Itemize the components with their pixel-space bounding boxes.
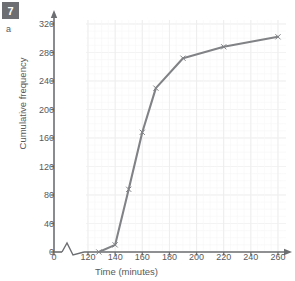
y-axis-title: Cumulative frequency bbox=[17, 34, 28, 174]
y-axis-tick-label: 280 bbox=[28, 48, 54, 58]
y-axis-tick: 120 bbox=[28, 167, 54, 177]
y-axis-tick: 200 bbox=[28, 110, 54, 120]
data-point-markers bbox=[96, 34, 280, 254]
y-axis-tick: 240 bbox=[28, 81, 54, 91]
x-axis-tick-label: 220 bbox=[216, 252, 231, 262]
y-axis-tick-label: 160 bbox=[28, 133, 54, 143]
y-axis-tick-label: 80 bbox=[28, 190, 54, 200]
x-axis-tick-label: 160 bbox=[135, 252, 150, 262]
axes bbox=[51, 10, 293, 256]
x-axis-tick-label: 140 bbox=[108, 252, 123, 262]
x-axis-tick-label: 240 bbox=[243, 252, 258, 262]
x-axis-tick-labels: 0120140160180200220240260 bbox=[0, 252, 295, 266]
x-axis-tick-label: 200 bbox=[189, 252, 204, 262]
x-axis-tick-label: 120 bbox=[80, 252, 95, 262]
x-axis-tick-label: 260 bbox=[270, 252, 285, 262]
x-axis-tick-label: 0 bbox=[51, 252, 56, 262]
y-axis-tick-label: 240 bbox=[28, 76, 54, 86]
y-axis-tick-label: 40 bbox=[28, 219, 54, 229]
x-axis-title: Time (minutes) bbox=[95, 266, 158, 277]
y-axis-tick-label: 320 bbox=[28, 19, 54, 29]
y-axis-tick: 280 bbox=[28, 53, 54, 63]
y-axis-tick: 320 bbox=[28, 24, 54, 34]
cumulative-frequency-chart: 04080120160200240280320 0120140160180200… bbox=[0, 0, 295, 281]
y-axis-tick-label: 120 bbox=[28, 162, 54, 172]
y-axis-tick-label: 200 bbox=[28, 105, 54, 115]
y-axis-tick: 160 bbox=[28, 138, 54, 148]
grid-lines bbox=[86, 20, 286, 252]
y-axis-tick: 80 bbox=[28, 195, 54, 205]
y-axis-tick: 40 bbox=[28, 224, 54, 234]
x-axis-tick-label: 180 bbox=[162, 252, 177, 262]
